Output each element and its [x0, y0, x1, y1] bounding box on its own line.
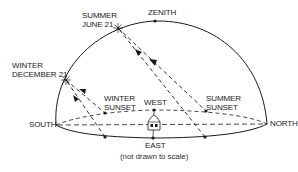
west-label: WEST: [144, 99, 167, 108]
observer-house-icon: [148, 115, 160, 130]
summer-label-line2: JUNE 21: [82, 21, 117, 30]
winter-setting-arrow: [79, 89, 86, 94]
summer-rising-path: [118, 28, 205, 137]
winter-setting-path: [66, 80, 105, 113]
scale-caption: (not drawn to scale): [120, 153, 188, 162]
summer-setting-arrow: [149, 59, 157, 66]
summer-solstice-label: SUMMER JUNE 21: [82, 12, 117, 29]
horizon-front-edge: [56, 124, 267, 138]
winter-sunset-line2: SUNSET: [104, 104, 136, 113]
winter-label-line2: DECEMBER 21: [12, 71, 67, 80]
winter-solstice-label: WINTER DECEMBER 21: [12, 62, 67, 79]
south-north-axis: [58, 124, 266, 125]
summer-sunrise-dot: [203, 135, 206, 138]
sun-path-diagram: ZENITH SUMMER JUNE 21 WINTER DECEMBER 21…: [0, 0, 298, 172]
winter-rising-arrow: [73, 95, 79, 102]
summer-sunset-line2: SUNSET: [206, 104, 241, 113]
north-label: NORTH: [270, 120, 298, 129]
winter-sunset-label: WINTER SUNSET: [104, 95, 136, 112]
east-label: EAST: [145, 142, 166, 151]
winter-sunrise-dot: [103, 135, 106, 138]
zenith-label: ZENITH: [148, 9, 176, 18]
zenith-dot: [153, 19, 156, 22]
summer-sunset-label: SUMMER SUNSET: [206, 95, 241, 112]
south-label: SOUTH: [29, 121, 57, 130]
